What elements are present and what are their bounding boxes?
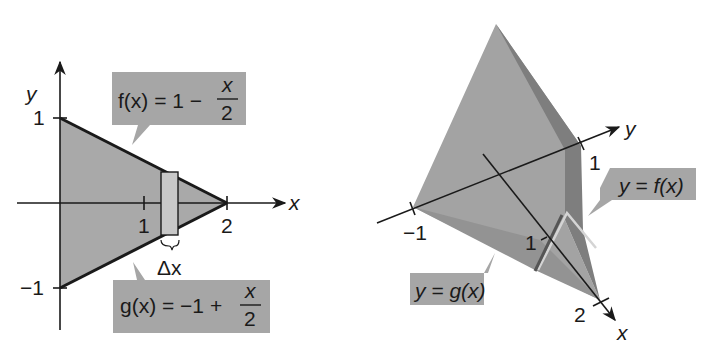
callout-g-numerator: x <box>244 279 257 302</box>
y-axis-label: y <box>24 82 38 105</box>
x-axis-label: x <box>288 191 301 214</box>
y-tick-label-neg1-3d: −1 <box>403 221 427 244</box>
callout-g-3d-text: y = g(x) <box>413 279 486 302</box>
callout-g-denominator: 2 <box>244 307 256 330</box>
callout-f-lhs: f(x) = 1 − <box>118 89 202 112</box>
delta-x-slab <box>161 172 178 235</box>
x-tick-label-1: 1 <box>138 214 150 237</box>
callout-f: f(x) = 1 − x 2 <box>112 72 246 145</box>
x-tick-2-3d <box>593 298 609 306</box>
x-tick-label-1-3d: 1 <box>525 231 537 254</box>
x-tick-label-2: 2 <box>221 214 233 237</box>
callout-f-3d: y = f(x) <box>588 168 696 216</box>
callout-g: g(x) = −1 + x 2 <box>113 262 270 333</box>
left-2d-region-diagram: y x 1 −1 1 2 Δx f(x) = 1 − x 2 g(x) = −1… <box>17 62 301 333</box>
x-axis-label-3d: x <box>616 321 629 344</box>
x-tick-label-2-3d: 2 <box>574 303 586 326</box>
y-axis-label-3d: y <box>623 117 637 140</box>
callout-f-numerator: x <box>221 73 234 96</box>
figure-canvas: y x 1 −1 1 2 Δx f(x) = 1 − x 2 g(x) = −1… <box>0 0 706 357</box>
right-3d-solid-diagram: y x −1 1 1 2 y = f(x) y = g(x) <box>377 24 696 344</box>
y-tick-label-1: 1 <box>33 106 45 129</box>
callout-g-3d: y = g(x) <box>410 253 495 305</box>
callout-f-3d-text: y = f(x) <box>617 174 684 197</box>
y-tick-label-1-3d: 1 <box>589 151 601 174</box>
callout-f-denominator: 2 <box>221 101 233 124</box>
delta-x-brace <box>161 240 179 250</box>
callout-g-lhs: g(x) = −1 + <box>120 294 222 317</box>
y-tick-label-neg1: −1 <box>20 276 44 299</box>
delta-x-label: Δx <box>157 256 182 279</box>
